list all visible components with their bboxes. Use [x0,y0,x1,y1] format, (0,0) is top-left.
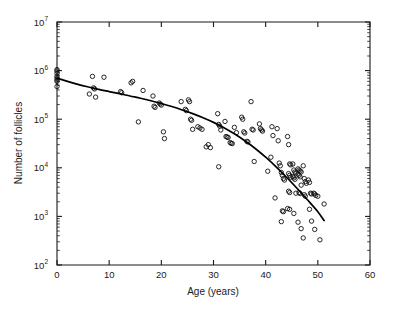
x-tick-label: 10 [104,269,115,280]
scatter-plot-svg: 102103104105106107 0102030405060 Age (ye… [0,0,399,313]
y-tick-exponent: 2 [44,258,48,265]
y-tick-exponent: 7 [44,15,48,22]
x-tick-label: 60 [365,269,376,280]
y-axis-title: Number of follicles [13,102,24,184]
follicle-decline-figure: 102103104105106107 0102030405060 Age (ye… [0,0,399,313]
y-tick-exponent: 3 [44,209,48,216]
x-tick-label: 40 [260,269,271,280]
plot-background [0,0,399,313]
y-tick-exponent: 4 [44,161,48,168]
x-tick-label: 50 [313,269,324,280]
x-tick-label: 0 [54,269,59,280]
x-tick-label: 20 [156,269,167,280]
y-tick-exponent: 6 [44,64,48,71]
x-axis-title: Age (years) [187,286,239,297]
y-tick-exponent: 5 [44,112,48,119]
x-tick-label: 30 [208,269,219,280]
